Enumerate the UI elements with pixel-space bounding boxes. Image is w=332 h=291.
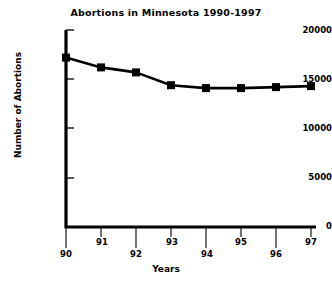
data-point-91 [97,63,105,71]
data-point-97 [307,82,315,90]
plot-area [0,0,332,291]
data-point-94 [202,84,210,92]
chart-container: Abortions in Minnesota 1990-1997 Number … [0,0,332,291]
data-point-90 [62,54,70,62]
data-point-96 [272,83,280,91]
data-point-95 [237,84,245,92]
data-point-93 [167,81,175,89]
x-axis-ticks [66,227,311,248]
data-point-92 [132,68,140,76]
axis-lines [66,30,316,227]
